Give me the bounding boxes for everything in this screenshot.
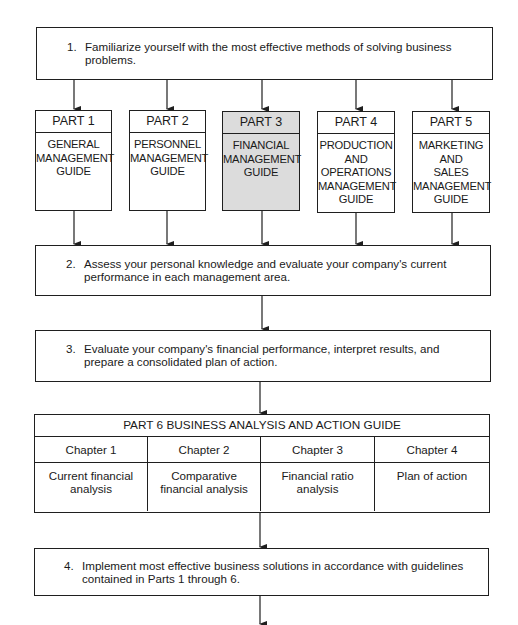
chapter-4-label: Chapter 4	[375, 437, 489, 462]
step-number: 2.	[66, 257, 76, 270]
chapter-2-label: Chapter 2	[148, 437, 261, 462]
chapter-description-line: analysis	[261, 482, 374, 495]
chapter-description-line: Plan of action	[375, 469, 489, 482]
part-title-line: AND	[318, 153, 394, 167]
part-title-line: FINANCIAL	[223, 139, 299, 153]
chapter-4-description: Plan of action	[375, 463, 489, 511]
part-title-line: MANAGEMENT	[36, 152, 111, 166]
part-title-line: GUIDE	[130, 165, 205, 179]
part-title: PRODUCTION AND OPERATIONS MANAGEMENT GUI…	[318, 134, 394, 207]
part-title-line: MANAGEMENT	[130, 152, 205, 166]
chapter-description-line: Current financial	[35, 469, 147, 482]
part-title-line: GUIDE	[223, 166, 299, 180]
step-text: Familiarize yourself with the most effec…	[85, 40, 452, 66]
part-title: FINANCIAL MANAGEMENT GUIDE	[223, 134, 299, 180]
part-title-line: MANAGEMENT	[223, 153, 299, 167]
part-title: MARKETING AND SALES MANAGEMENT GUIDE	[413, 134, 489, 207]
chapter-description-line: analysis	[35, 482, 147, 495]
part-title-line: AND	[413, 153, 489, 167]
part-title: GENERAL MANAGEMENT GUIDE	[36, 133, 111, 179]
part-title-line: MANAGEMENT	[318, 180, 394, 194]
part-label: PART 3	[223, 112, 299, 134]
part-title-line: GUIDE	[36, 165, 111, 179]
part-label: PART 2	[130, 111, 205, 133]
part-title-line: GENERAL	[36, 138, 111, 152]
chapter-description-row: Current financial analysis Comparative f…	[35, 463, 489, 511]
chapter-description-line: financial analysis	[148, 482, 260, 495]
step-4-box: 4. Implement most effective business sol…	[34, 548, 489, 596]
part-title: PERSONNEL MANAGEMENT GUIDE	[130, 133, 205, 179]
part-4-box: PART 4 PRODUCTION AND OPERATIONS MANAGEM…	[317, 111, 395, 213]
part-1-box: PART 1 GENERAL MANAGEMENT GUIDE	[35, 110, 112, 211]
step-number: 4.	[64, 559, 74, 572]
part-label: PART 4	[318, 112, 394, 134]
chapter-1-description: Current financial analysis	[35, 463, 148, 511]
chapter-3-label: Chapter 3	[261, 437, 375, 462]
chapter-3-description: Financial ratio analysis	[261, 463, 375, 511]
chapter-2-description: Comparative financial analysis	[148, 463, 261, 511]
part-title-line: PERSONNEL	[130, 138, 205, 152]
part-label: PART 5	[413, 112, 489, 134]
step-number: 1.	[67, 40, 77, 53]
part-title-line: GUIDE	[413, 193, 489, 207]
step-number: 3.	[66, 342, 76, 355]
chapter-description-line: Comparative	[148, 469, 260, 482]
part-6-title: PART 6 BUSINESS ANALYSIS AND ACTION GUID…	[35, 415, 489, 437]
connector-arrows	[0, 0, 518, 625]
chapter-header-row: Chapter 1 Chapter 2 Chapter 3 Chapter 4	[35, 437, 489, 463]
part-title-line: PRODUCTION	[318, 139, 394, 153]
step-text: Implement most effective business soluti…	[82, 559, 468, 585]
part-title-line: MARKETING	[413, 139, 489, 153]
step-text: Assess your personal knowledge and evalu…	[84, 257, 450, 283]
part-6-table: PART 6 BUSINESS ANALYSIS AND ACTION GUID…	[34, 414, 490, 513]
step-2-box: 2. Assess your personal knowledge and ev…	[35, 245, 491, 296]
part-title-line: OPERATIONS	[318, 166, 394, 180]
step-1-box: 1. Familiarize yourself with the most ef…	[36, 27, 493, 80]
step-text: Evaluate your company's financial perfor…	[84, 342, 440, 368]
part-label: PART 1	[36, 111, 111, 133]
part-2-box: PART 2 PERSONNEL MANAGEMENT GUIDE	[129, 110, 206, 211]
chapter-description-line: Financial ratio	[261, 469, 374, 482]
part-3-box-highlighted: PART 3 FINANCIAL MANAGEMENT GUIDE	[222, 111, 300, 211]
part-title-line: MANAGEMENT	[413, 180, 489, 194]
part-title-line: SALES	[413, 166, 489, 180]
part-5-box: PART 5 MARKETING AND SALES MANAGEMENT GU…	[412, 111, 490, 213]
chapter-1-label: Chapter 1	[35, 437, 148, 462]
step-3-box: 3. Evaluate your company's financial per…	[35, 330, 491, 382]
part-title-line: GUIDE	[318, 193, 394, 207]
